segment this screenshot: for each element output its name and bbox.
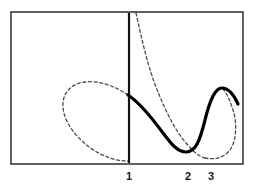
x-tick-label-1: 1 <box>126 170 132 182</box>
curve-figure: 123 <box>0 0 254 188</box>
figure-canvas: 123 <box>0 0 254 188</box>
x-tick-label-3: 3 <box>208 170 214 182</box>
x-tick-label-2: 2 <box>185 170 191 182</box>
